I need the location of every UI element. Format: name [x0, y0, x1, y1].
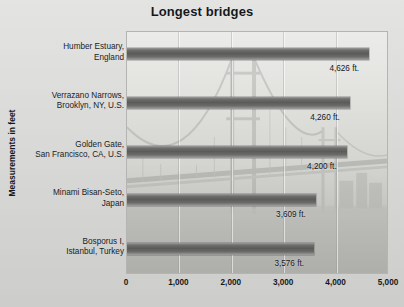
plot-area: 4,626 ft.4,260 ft.4,200 ft.3,609 ft.3,57…	[126, 31, 388, 274]
category-label-line1: Verrazano Narrows,	[18, 91, 124, 102]
bar	[127, 97, 350, 109]
category-label-line2: Japan	[18, 199, 124, 210]
category-label: Humber Estuary,England	[18, 42, 124, 63]
x-axis-tick-label: 1,000	[168, 278, 189, 287]
x-axis-tick-label: 2,000	[221, 278, 242, 287]
category-label-line1: Golden Gate,	[18, 140, 124, 151]
category-label-line1: Minami Bisan-Seto,	[18, 188, 124, 199]
bar	[127, 243, 314, 255]
category-label-line2: Istanbul, Turkey	[18, 247, 124, 258]
x-axis-tick-label: 4,000	[325, 278, 346, 287]
bar-value-label: 4,626 ft.	[329, 64, 359, 73]
bar-value-label: 3,576 ft.	[274, 259, 304, 268]
bar	[127, 194, 316, 206]
x-axis-tick-label: 5,000	[378, 278, 399, 287]
x-axis-tick-label: 0	[124, 278, 129, 287]
y-axis-title: Measurements in feet	[7, 98, 17, 208]
bar	[127, 48, 369, 60]
chart-title: Longest bridges	[0, 4, 404, 19]
category-label-line2: Brooklyn, NY, U.S.	[18, 101, 124, 112]
bar	[127, 146, 347, 158]
chart-container: Longest bridges Measurements in feet Hum…	[0, 0, 404, 307]
bar-value-label: 4,260 ft.	[310, 113, 340, 122]
category-label-line2: England	[18, 53, 124, 64]
x-axis-tick-label: 3,000	[273, 278, 294, 287]
category-label-list: Humber Estuary,EnglandVerrazano Narrows,…	[18, 31, 124, 274]
category-label-line1: Bosporus I,	[18, 237, 124, 248]
category-label: Verrazano Narrows,Brooklyn, NY, U.S.	[18, 91, 124, 112]
category-label: Bosporus I,Istanbul, Turkey	[18, 237, 124, 258]
x-axis-tick-list: 01,0002,0003,0004,0005,000	[126, 278, 388, 292]
category-label-line1: Humber Estuary,	[18, 42, 124, 53]
category-label-line2: San Francisco, CA, U.S.	[18, 150, 124, 161]
bar-value-label: 3,609 ft.	[276, 210, 306, 219]
category-label: Minami Bisan-Seto,Japan	[18, 188, 124, 209]
category-label: Golden Gate,San Francisco, CA, U.S.	[18, 140, 124, 161]
bar-value-label: 4,200 ft.	[307, 162, 337, 171]
